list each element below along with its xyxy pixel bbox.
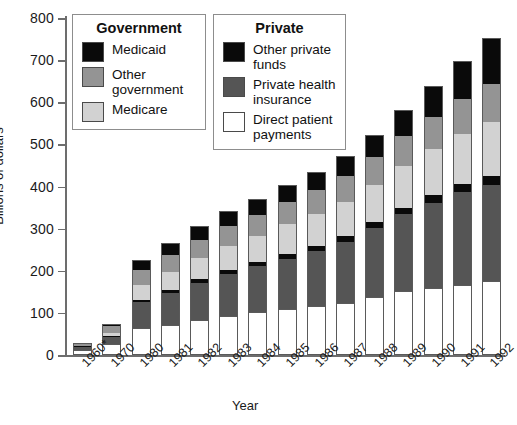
- bar-segment-medicaid: [482, 38, 501, 84]
- y-tick-label: 800: [30, 10, 54, 26]
- y-tick: [58, 102, 66, 104]
- legend-item-other-private-funds: Other privatefunds: [214, 40, 345, 75]
- y-tick: [58, 313, 66, 315]
- swatch-medicare: [82, 102, 104, 122]
- legend-label-private-health-insurance: Private healthinsurance: [253, 77, 336, 107]
- bar-segment-other-government: [365, 157, 384, 185]
- bar-segment-medicare: [394, 166, 413, 208]
- swatch-other-private-funds: [223, 42, 245, 62]
- bar-1984[interactable]: [248, 199, 267, 355]
- bar-segment-private-health-insurance: [219, 274, 238, 317]
- bar-segment-medicare: [307, 214, 326, 246]
- bar-segment-other-government: [73, 344, 92, 346]
- bar-segment-medicare: [132, 285, 151, 300]
- bar-segment-other-government: [424, 117, 443, 150]
- y-tick-label: 0: [46, 347, 54, 363]
- y-tick-label: 700: [30, 52, 54, 68]
- swatch-direct-patient-payments: [223, 112, 245, 132]
- bar-segment-medicaid: [132, 260, 151, 271]
- bar-1983[interactable]: [219, 211, 238, 355]
- bar-segment-medicare: [278, 224, 297, 254]
- bar-segment-direct-patient-payments: [453, 285, 472, 355]
- bar-1981[interactable]: [161, 243, 180, 355]
- bar-1988[interactable]: [365, 135, 384, 355]
- bar-segment-direct-patient-payments: [424, 288, 443, 355]
- bar-segment-other-government: [278, 202, 297, 224]
- legend-item-medicaid: Medicaid: [73, 40, 205, 65]
- legend-label-other-private-funds: Other privatefunds: [253, 42, 331, 72]
- bar-segment-medicare: [219, 246, 238, 270]
- x-axis-title: Year: [232, 398, 258, 413]
- bar-segment-other-private-funds: [102, 336, 121, 337]
- bar-segment-other-private-funds: [482, 176, 501, 185]
- bar-segment-direct-patient-payments: [482, 281, 501, 355]
- legend-label-medicare: Medicare: [112, 102, 168, 118]
- bar-segment-medicaid: [307, 172, 326, 191]
- y-tick-label: 100: [30, 305, 54, 321]
- bar-segment-other-government: [161, 255, 180, 271]
- bar-segment-medicaid: [394, 110, 413, 136]
- bar-segment-other-government: [219, 226, 238, 246]
- bar-segment-private-health-insurance: [424, 203, 443, 289]
- bar-1990[interactable]: [424, 86, 443, 355]
- y-tick: [58, 144, 66, 146]
- bar-segment-medicaid: [248, 199, 267, 215]
- y-tick: [58, 60, 66, 62]
- bar-segment-other-private-funds: [190, 279, 209, 282]
- bar-segment-private-health-insurance: [336, 242, 355, 304]
- bar-segment-medicaid: [336, 156, 355, 177]
- bar-segment-private-health-insurance: [394, 214, 413, 291]
- bar-1982[interactable]: [190, 226, 209, 355]
- bar-segment-private-health-insurance: [482, 185, 501, 281]
- legend-label-other-government: Othergovernment: [112, 67, 183, 97]
- bar-1986[interactable]: [307, 172, 326, 355]
- bar-segment-other-private-funds: [73, 346, 92, 347]
- bar-segment-private-health-insurance: [190, 283, 209, 320]
- bar-segment-other-private-funds: [219, 270, 238, 274]
- bar-segment-private-health-insurance: [161, 293, 180, 325]
- bar-segment-other-government: [394, 136, 413, 166]
- bar-segment-private-health-insurance: [365, 228, 384, 297]
- bar-1985[interactable]: [278, 185, 297, 355]
- y-tick-label: 400: [30, 179, 54, 195]
- bar-segment-medicare: [365, 185, 384, 222]
- bar-segment-medicaid: [424, 86, 443, 116]
- bar-segment-medicare: [482, 122, 501, 176]
- bar-segment-medicaid: [219, 211, 238, 226]
- bar-segment-private-health-insurance: [248, 266, 267, 312]
- y-tick-label: 300: [30, 221, 54, 237]
- bar-1992[interactable]: [482, 38, 501, 355]
- y-tick: [58, 355, 66, 357]
- bar-segment-other-government: [248, 215, 267, 236]
- bar-segment-other-private-funds: [161, 290, 180, 293]
- bar-segment-private-health-insurance: [453, 192, 472, 285]
- bar-segment-other-private-funds: [365, 222, 384, 228]
- bar-1991[interactable]: [453, 61, 472, 355]
- bar-segment-other-private-funds: [278, 254, 297, 259]
- bar-segment-medicare: [102, 333, 121, 336]
- bar-1989[interactable]: [394, 110, 413, 355]
- bar-segment-medicare: [248, 236, 267, 262]
- legend-item-private-health-insurance: Private healthinsurance: [214, 75, 345, 110]
- bar-segment-medicaid: [453, 61, 472, 99]
- y-tick-label: 600: [30, 94, 54, 110]
- y-tick: [58, 229, 66, 231]
- bar-segment-other-private-funds: [336, 236, 355, 241]
- bar-1987[interactable]: [336, 156, 355, 355]
- bar-segment-medicaid: [161, 243, 180, 255]
- legend-label-medicaid: Medicaid: [112, 42, 166, 58]
- bar-segment-medicare: [336, 202, 355, 236]
- bar-segment-other-government: [102, 326, 121, 333]
- bar-segment-other-private-funds: [424, 195, 443, 202]
- legend-private-title: Private: [214, 15, 345, 40]
- bar-segment-direct-patient-payments: [394, 291, 413, 355]
- y-tick: [58, 18, 66, 20]
- legend-label-direct-patient-payments: Direct patientpayments: [253, 112, 333, 142]
- legend-item-medicare: Medicare: [73, 100, 205, 129]
- y-tick-label: 200: [30, 263, 54, 279]
- bar-segment-other-government: [336, 176, 355, 202]
- legend-private: Private Other privatefunds Private healt…: [213, 14, 346, 150]
- bar-1980[interactable]: [132, 260, 151, 355]
- bar-segment-other-government: [132, 270, 151, 284]
